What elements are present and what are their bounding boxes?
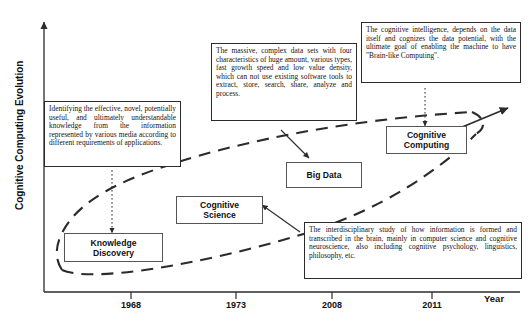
node-cognitive-computing[interactable]: Cognitive Computing — [386, 126, 467, 154]
node-cognitive-science-line1: Cognitive — [200, 200, 239, 210]
leader-cognitive-science — [262, 205, 300, 232]
node-cognitive-computing-line2: Computing — [404, 140, 449, 150]
node-knowledge-discovery[interactable]: Knowledge Discovery — [64, 233, 163, 262]
node-knowledge-discovery-label: Knowledge Discovery — [91, 238, 137, 258]
figure-canvas: Cognitive Computing Evolution 1968 1973 … — [0, 0, 529, 321]
note-cognitive-computing-text: The cognitive intelligence, depends on t… — [366, 26, 516, 60]
node-big-data[interactable]: Big Data — [286, 162, 362, 188]
node-cognitive-computing-line1: Cognitive — [407, 130, 446, 140]
node-cognitive-computing-label: Cognitive Computing — [404, 130, 449, 150]
note-big-data-text: The massive, complex data sets with four… — [216, 47, 352, 99]
node-cognitive-science[interactable]: Cognitive Science — [176, 196, 263, 224]
x-axis-title: Year — [484, 293, 504, 304]
note-big-data: The massive, complex data sets with four… — [211, 43, 357, 121]
x-tick-label-1968: 1968 — [107, 300, 155, 310]
note-knowledge-discovery-text: Identifying the effective, novel, potent… — [49, 105, 176, 148]
note-cognitive-computing: The cognitive intelligence, depends on t… — [361, 22, 521, 83]
x-tick-label-2008: 2008 — [308, 300, 356, 310]
leader-big-data — [281, 130, 309, 158]
y-axis-title: Cognitive Computing Evolution — [14, 61, 25, 210]
note-cognitive-science: The interdisciplinary study of how infor… — [304, 222, 522, 279]
node-big-data-line1: Big Data — [307, 170, 342, 180]
node-knowledge-discovery-line1: Knowledge — [91, 238, 137, 248]
node-big-data-label: Big Data — [307, 170, 342, 180]
note-knowledge-discovery: Identifying the effective, novel, potent… — [44, 101, 181, 167]
node-cognitive-science-label: Cognitive Science — [200, 200, 239, 220]
x-tick-label-1973: 1973 — [212, 300, 260, 310]
node-knowledge-discovery-line2: Discovery — [93, 248, 134, 258]
note-cognitive-science-text: The interdisciplinary study of how infor… — [309, 226, 517, 260]
node-cognitive-science-line2: Science — [203, 210, 236, 220]
x-tick-label-2011: 2011 — [408, 300, 456, 310]
